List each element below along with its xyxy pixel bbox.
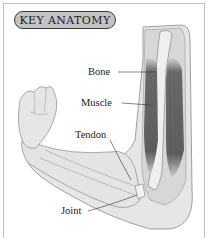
label-tendon: Tendon	[75, 129, 106, 140]
label-bone: Bone	[88, 66, 110, 77]
label-muscle: Muscle	[81, 97, 112, 108]
arm-illustration	[0, 0, 211, 238]
label-joint: Joint	[61, 205, 81, 216]
fist-shape	[18, 87, 56, 149]
